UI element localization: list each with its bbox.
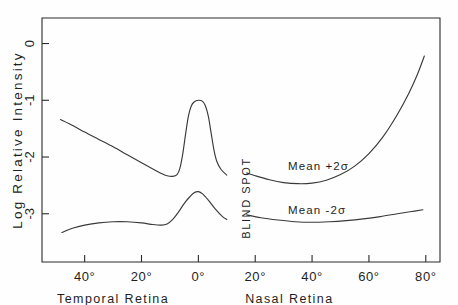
x-tick-label-6: 80° xyxy=(415,269,436,284)
x-tick-label-0: 40° xyxy=(74,269,95,284)
x-axis-region-labels: Temporal RetinaNasal Retina xyxy=(57,292,333,305)
x-axis-tick-marks xyxy=(85,255,426,262)
annotation-mean-minus-2sigma: Mean -2σ xyxy=(288,204,346,216)
retinal-sensitivity-chart: 0-1-2-3 40°20°0°20°40°60°80° Log Relativ… xyxy=(0,0,458,305)
x-tick-label-4: 40° xyxy=(301,269,322,284)
curve-series-0-temporal xyxy=(60,100,226,176)
x-tick-label-1: 20° xyxy=(131,269,152,284)
x-axis-tick-labels: 40°20°0°20°40°60°80° xyxy=(74,269,437,284)
curve-annotations: Mean +2σ Mean -2σ xyxy=(288,160,349,216)
y-axis-title-group: Log Relative Intensity xyxy=(10,51,25,228)
y-tick-label-0: 0 xyxy=(23,40,38,47)
x-region-label-1: Nasal Retina xyxy=(245,292,333,305)
x-tick-label-3: 20° xyxy=(244,269,265,284)
y-axis-tick-marks xyxy=(42,44,49,214)
x-tick-label-5: 60° xyxy=(358,269,379,284)
blind-spot-label-group: BLIND SPOT xyxy=(240,157,252,238)
y-axis-title: Log Relative Intensity xyxy=(10,51,25,228)
curve-series-1-temporal xyxy=(62,192,227,233)
figure-container: 0-1-2-3 40°20°0°20°40°60°80° Log Relativ… xyxy=(0,0,458,305)
x-region-label-0: Temporal Retina xyxy=(57,292,169,305)
x-tick-label-2: 0° xyxy=(192,269,206,284)
blind-spot-label: BLIND SPOT xyxy=(240,157,252,238)
annotation-mean-plus-2sigma: Mean +2σ xyxy=(288,160,349,172)
